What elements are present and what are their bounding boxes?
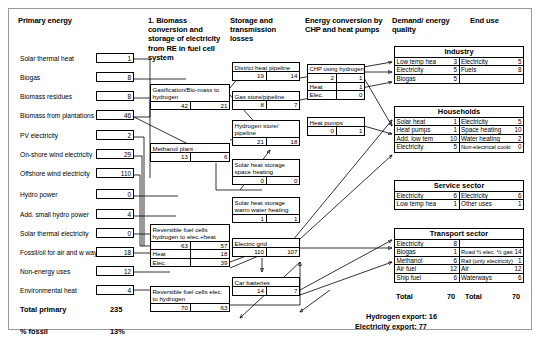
storage-output-cell: 7: [266, 101, 300, 109]
primary-label-biomass-plantations: Biomass from plantations: [20, 112, 94, 120]
primary-value-add-small-hydro[interactable]: 4: [96, 209, 134, 219]
process-reversible-fuel-cells-electricity-to-hydrogen[interactable]: Reversible fuel cells elec. to hydrogen …: [150, 286, 230, 312]
demand-label: Electricity: [397, 143, 424, 152]
conversion-input-cell: 0: [308, 127, 336, 135]
primary-value-text: 29: [124, 151, 131, 159]
demand-line: Biogas5: [395, 75, 459, 84]
storage-solar-heat-warm-water[interactable]: Solar heat storage warm water heating 1 …: [232, 197, 300, 223]
primary-label-offshore-wind: Offshore wind electricity: [20, 170, 90, 178]
conversion-heat-label: Heat: [310, 83, 323, 91]
conversion-elec-value-cell: 0: [336, 91, 365, 99]
primary-value-biomass-plantations[interactable]: 46: [96, 110, 134, 120]
storage-input-value: 8: [261, 101, 264, 109]
header-demand-quality: Demand/ energy quality: [392, 16, 456, 34]
storage-values-row: 8 7: [233, 100, 299, 109]
sector-demand-column: Low temp hea3 Electricity5 Biogas5: [395, 58, 459, 84]
enduse-line: Other uses1: [460, 200, 524, 209]
primary-value-hydro-power[interactable]: 0: [96, 189, 134, 199]
demand-line: Add. low tem10: [395, 135, 459, 144]
enduse-value: 6: [518, 274, 522, 283]
enduse-label: Fuels: [461, 66, 476, 75]
storage-gas-store-pipeline[interactable]: Gas store/pipeline 8 7: [232, 91, 300, 110]
sector-transport[interactable]: Transport sector Electricity8 Biogas1 Me…: [394, 228, 524, 283]
primary-label-onshore-wind: On-shore wind electricity: [20, 151, 92, 159]
primary-value-non-energy-uses[interactable]: 12: [96, 266, 134, 276]
primary-value-biogas[interactable]: 8: [96, 72, 134, 82]
storage-values-row: 0 0: [233, 176, 299, 185]
conversion-heat-pumps[interactable]: Heat pumps 0 1: [307, 117, 365, 136]
storage-electric-grid[interactable]: Electric grid 110 107: [232, 238, 300, 257]
primary-value-solar-thermal-electricity[interactable]: 0: [96, 228, 134, 238]
header-storage-transmission: Storage and transmission losses: [230, 16, 300, 44]
process-output-value: 21: [221, 102, 228, 110]
demand-label: Low temp hea: [397, 200, 437, 209]
sector-service[interactable]: Service sector Electricity6 Low temp hea…: [394, 180, 524, 210]
enduse-line-spacer: [460, 240, 524, 249]
demand-label: Solar heat: [397, 118, 426, 127]
primary-value-text: 4: [127, 211, 131, 219]
process-reversible-fuel-cells-hydrogen-to-electricity[interactable]: Reversible fuel cells hydrogen to elec.+…: [150, 224, 230, 267]
storage-output-cell: 14: [266, 72, 300, 80]
demand-value: 1: [453, 248, 457, 257]
process-elec-row: Elec. 39: [151, 258, 229, 267]
primary-label-pv-electricity: PV electricity: [20, 132, 58, 140]
storage-input-value: 1: [261, 215, 264, 223]
process-output-value: 6: [224, 153, 227, 161]
process-input-value: 13: [181, 153, 188, 161]
total-enduse-label: Total: [465, 292, 482, 301]
storage-title: Gas store/pipeline: [233, 92, 299, 100]
storage-input-value: 110: [254, 248, 264, 256]
process-input-cell: 70: [151, 304, 190, 312]
demand-line: Low temp hea3: [395, 58, 459, 67]
enduse-label: Space heating: [461, 126, 501, 135]
enduse-line: Rail (only electricity)1: [460, 257, 524, 266]
conversion-chp-using-hydrogen[interactable]: CHP using hydrogen 2 1 Heat 1 Elec. 0: [307, 64, 365, 100]
demand-label: Ship fuel: [397, 274, 422, 283]
demand-value: 12: [450, 265, 457, 274]
storage-district-heat-pipeline[interactable]: District heat pipeline 19 14: [232, 62, 300, 81]
primary-value-text: 0: [127, 230, 131, 238]
process-title: Methanol plant: [151, 144, 229, 152]
process-output-value: 57: [221, 242, 228, 250]
sector-industry[interactable]: Industry Low temp hea3 Electricity5 Biog…: [394, 46, 524, 84]
storage-hydrogen-store-pipeline[interactable]: Hydrogen store/ pipeline 21 18: [232, 120, 300, 146]
primary-value-onshore-wind[interactable]: 29: [96, 149, 134, 159]
sector-body: Electricity6 Low temp hea1 Electricity6 …: [395, 192, 523, 209]
process-output-cell: 57: [190, 242, 230, 250]
storage-solar-heat-space-heating[interactable]: Solar heat storage space heating 0 0: [232, 159, 300, 185]
primary-value-solar-thermal-heat[interactable]: 1: [96, 53, 134, 63]
process-gasification-biomass-to-hydrogen[interactable]: Gasification/Bio-mass to hydrogen 42 21: [150, 84, 230, 110]
energy-flow-diagram: Primary energy 1. Biomass conversion and…: [0, 0, 539, 355]
primary-value-offshore-wind[interactable]: 110: [96, 168, 134, 178]
primary-label-environmental-heat: Environmental heat: [20, 287, 77, 295]
demand-label: Heat pumps: [397, 126, 431, 135]
primary-value-text: 1: [127, 55, 131, 63]
process-input-value: 42: [181, 102, 188, 110]
process-methanol-plant[interactable]: Methanol plant 13 6: [150, 143, 230, 162]
enduse-value: 1: [518, 257, 522, 266]
storage-car-batteries[interactable]: Car batteries 14 7: [232, 277, 300, 296]
primary-value-biomass-residues[interactable]: 8: [96, 91, 134, 101]
primary-value-pv-electricity[interactable]: 2: [96, 130, 134, 140]
conversion-heat-label-cell: Heat: [308, 83, 336, 91]
primary-value-text: 8: [127, 74, 131, 82]
demand-line: Ship fuel6: [395, 274, 459, 283]
storage-output-value: 107: [287, 248, 297, 256]
primary-value-fossil-oil[interactable]: 18: [96, 247, 134, 257]
enduse-line: Road ½ elec. ½ gas14: [460, 248, 524, 257]
storage-output-cell: 18: [266, 138, 300, 146]
enduse-value: 8: [518, 66, 522, 75]
demand-label: Biogas: [397, 75, 416, 84]
demand-label: Electricity: [397, 192, 424, 201]
primary-value-environmental-heat[interactable]: 4: [96, 285, 134, 295]
demand-line: Electricity6: [395, 192, 459, 201]
storage-input-cell: 19: [233, 72, 266, 80]
sector-title: Households: [395, 107, 523, 118]
process-heat-label: Heat: [153, 250, 166, 258]
percent-fossil-label: % fossil: [20, 327, 48, 336]
sector-households[interactable]: Households Solar heat1 Heat pumps1 Add. …: [394, 106, 524, 153]
demand-value: 3: [453, 58, 457, 67]
conversion-input-value: 0: [331, 127, 334, 135]
total-demand-value: 70: [447, 292, 455, 301]
total-demand-label: Total: [396, 292, 413, 301]
